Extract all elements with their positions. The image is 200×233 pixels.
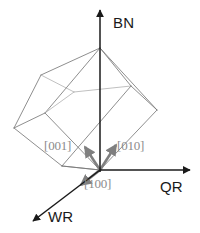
axis-label-bn: BN (113, 14, 134, 31)
orientation-diagram: BN QR WR [001] [010] [100] (0, 0, 200, 233)
cube-hidden-edge-b (74, 86, 131, 92)
direction-label-100: [100] (84, 176, 111, 192)
cube-edge-left-upper (14, 75, 41, 128)
axis-label-wr: WR (48, 208, 73, 225)
cube-hidden-edges (41, 75, 131, 113)
cube-edge-inner-f (62, 86, 131, 166)
direction-vector-010 (100, 145, 116, 170)
cube-edge-inner-d (131, 86, 157, 110)
direction-vector-001 (85, 147, 100, 170)
direction-label-010: [010] (117, 138, 144, 154)
cube-hidden-edge-a (41, 75, 74, 92)
diagram-canvas (0, 0, 200, 233)
cube-edge-inner-g (62, 166, 100, 170)
cube-edge-top-left (41, 48, 100, 75)
cube-edge-inner-a (45, 48, 100, 113)
direction-label-001: [001] (44, 138, 71, 154)
cube-hidden-edge-c (45, 92, 74, 113)
cube-edge-inner-b (14, 113, 45, 128)
axis-label-qr: QR (160, 178, 183, 195)
cube-edge-top-right (100, 48, 157, 110)
cube-edge-inner-e (100, 48, 131, 86)
